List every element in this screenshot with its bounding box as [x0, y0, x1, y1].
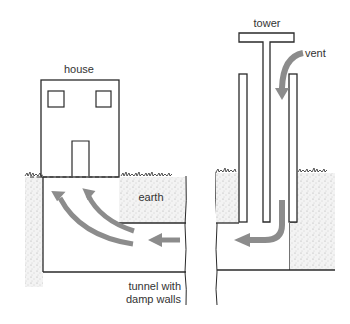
house-window-right — [96, 91, 111, 107]
earth-right-left — [216, 173, 239, 223]
grass-right-left — [216, 168, 236, 172]
tower-panel: tower vent — [216, 17, 335, 305]
label-earth: earth — [138, 191, 163, 203]
wind-tower-diagram: house earth tunnel with damp walls tower… — [0, 0, 350, 324]
label-tunnel-line1: tunnel with — [128, 280, 181, 292]
house-body — [41, 80, 119, 177]
label-vent: vent — [305, 47, 326, 59]
tower-pipe-right — [289, 74, 297, 222]
label-tunnel-line2: damp walls — [126, 293, 182, 305]
grass-right-right — [298, 168, 327, 172]
house-window-left — [48, 91, 64, 107]
tower-pipe-left — [239, 74, 247, 222]
house-door — [72, 141, 89, 176]
vent-arrowhead — [275, 88, 289, 100]
grass-earth — [121, 172, 172, 176]
grass-left — [25, 172, 43, 176]
earth-right-right — [297, 173, 335, 270]
airflow-arrowhead-horizontal — [148, 233, 162, 247]
label-tower: tower — [254, 17, 281, 29]
earth-left — [25, 177, 43, 287]
tower-flow-arrowhead — [234, 233, 250, 247]
label-house: house — [64, 63, 94, 75]
house-panel: house earth tunnel with damp walls — [25, 63, 186, 305]
